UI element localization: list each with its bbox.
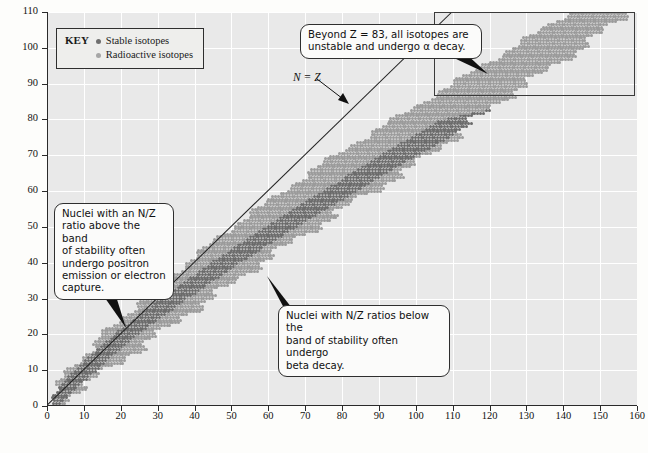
- x-tick-label: 70: [285, 410, 325, 421]
- radioactive-nuclide-dot: [365, 192, 368, 195]
- radioactive-nuclide-dot: [412, 160, 415, 163]
- radioactive-nuclide-dot: [151, 329, 154, 332]
- radioactive-nuclide-dot: [396, 171, 399, 174]
- radioactive-nuclide-dot: [139, 351, 142, 354]
- radioactive-nuclide-dot: [293, 235, 296, 238]
- radioactive-nuclide-dot: [234, 278, 237, 281]
- radioactive-nuclide-dot: [399, 168, 402, 171]
- y-tick: [42, 48, 47, 49]
- stable-nuclide-dot: [482, 112, 485, 115]
- stable-nuclide-dot: [94, 370, 97, 373]
- radioactive-nuclide-dot: [347, 203, 350, 206]
- y-axis-line: [47, 12, 48, 406]
- y-tick-label: 80: [0, 112, 38, 123]
- radioactive-nuclide-dot: [439, 144, 442, 147]
- radioactive-nuclide-dot: [67, 399, 70, 402]
- radioactive-nuclide-dot: [127, 353, 130, 356]
- radioactive-nuclide-dot: [256, 270, 259, 273]
- legend-item-radioactive-label: Radioactive isotopes: [106, 49, 193, 60]
- radioactive-nuclide-dot: [158, 327, 161, 330]
- y-tick-label: 10: [0, 363, 38, 374]
- y-tick-label: 60: [0, 184, 38, 195]
- radioactive-nuclide-dot: [148, 337, 151, 340]
- radioactive-nuclide-dot: [95, 375, 98, 378]
- y-tick-label: 50: [0, 220, 38, 231]
- stable-nuclide-dot: [464, 117, 467, 120]
- radioactive-nuclide-dot: [320, 227, 323, 230]
- y-tick-label: 90: [0, 77, 38, 88]
- callout-positron-line4: undergo positron: [62, 258, 166, 270]
- radioactive-nuclide-dot: [236, 276, 239, 279]
- radioactive-nuclide-dot: [88, 378, 91, 381]
- y-tick-label: 40: [0, 256, 38, 267]
- radioactive-nuclide-dot: [201, 308, 204, 311]
- radioactive-nuclide-dot: [354, 195, 357, 198]
- radioactive-nuclide-dot: [334, 216, 337, 219]
- y-tick-label: 70: [0, 148, 38, 159]
- radioactive-nuclide-dot: [437, 149, 440, 152]
- x-tick-label: 20: [101, 410, 141, 421]
- radioactive-marker-icon: [96, 53, 101, 58]
- radioactive-nuclide-dot: [121, 362, 124, 365]
- y-tick: [42, 119, 47, 120]
- radioactive-nuclide-dot: [382, 187, 385, 190]
- radioactive-nuclide-dot: [393, 179, 396, 182]
- radioactive-nuclide-dot: [100, 367, 103, 370]
- radioactive-nuclide-dot: [260, 267, 263, 270]
- x-tick-label: 120: [470, 410, 510, 421]
- radioactive-nuclide-dot: [179, 319, 182, 322]
- legend-item-stable: Stable isotopes: [96, 34, 193, 48]
- callout-alpha-line1: Beyond Z = 83, all isotopes are: [308, 29, 474, 41]
- radioactive-nuclide-dot: [380, 184, 383, 187]
- radioactive-nuclide-dot: [340, 206, 343, 209]
- x-tick-label: 80: [322, 410, 362, 421]
- stable-nuclide-dot: [465, 120, 468, 123]
- x-tick-label: 40: [175, 410, 215, 421]
- radioactive-nuclide-dot: [110, 364, 113, 367]
- radioactive-nuclide-dot: [233, 281, 236, 284]
- radioactive-nuclide-dot: [456, 139, 459, 142]
- x-tick-label: 140: [543, 410, 583, 421]
- radioactive-nuclide-dot: [85, 386, 88, 389]
- radioactive-nuclide-dot: [349, 200, 352, 203]
- radioactive-nuclide-dot: [272, 254, 275, 257]
- radioactive-nuclide-dot: [80, 383, 83, 386]
- radioactive-nuclide-dot: [97, 372, 100, 375]
- stable-nuclide-dot: [80, 380, 83, 383]
- radioactive-nuclide-dot: [141, 340, 144, 343]
- callout-positron-line6: capture.: [62, 282, 166, 294]
- radioactive-nuclide-dot: [68, 394, 71, 397]
- radioactive-nuclide-dot: [412, 157, 415, 160]
- radioactive-nuclide-dot: [84, 388, 87, 391]
- radioactive-nuclide-dot: [154, 335, 157, 338]
- x-tick-label: 90: [359, 410, 399, 421]
- radioactive-nuclide-dot: [408, 165, 411, 168]
- y-tick: [42, 406, 47, 407]
- radioactive-nuclide-dot: [429, 152, 432, 155]
- stable-nuclide-dot: [465, 125, 468, 128]
- radioactive-nuclide-dot: [198, 310, 201, 313]
- radioactive-nuclide-dot: [413, 163, 416, 166]
- radioactive-nuclide-dot: [328, 219, 331, 222]
- y-tick: [42, 334, 47, 335]
- x-tick-label: 100: [396, 410, 436, 421]
- stable-marker-icon: [96, 39, 101, 44]
- callout-positron-line5: emission or electron: [62, 270, 166, 282]
- radioactive-nuclide-dot: [439, 147, 442, 150]
- callout-alpha-decay: Beyond Z = 83, all isotopes are unstable…: [300, 24, 482, 59]
- radioactive-nuclide-dot: [262, 259, 265, 262]
- radioactive-nuclide-dot: [243, 273, 246, 276]
- radioactive-nuclide-dot: [498, 101, 501, 104]
- radioactive-nuclide-dot: [270, 257, 273, 260]
- radioactive-nuclide-dot: [78, 391, 81, 394]
- y-tick-label: 20: [0, 327, 38, 338]
- x-tick-label: 50: [211, 410, 251, 421]
- radioactive-nuclide-dot: [226, 284, 229, 287]
- legend-item-stable-label: Stable isotopes: [106, 35, 169, 46]
- radioactive-nuclide-dot: [303, 233, 306, 236]
- callout-positron-line2: ratio above the band: [62, 220, 166, 245]
- radioactive-nuclide-dot: [201, 305, 204, 308]
- x-tick-label: 130: [506, 410, 546, 421]
- y-tick-label: 110: [0, 5, 38, 16]
- x-tick-label: 60: [248, 410, 288, 421]
